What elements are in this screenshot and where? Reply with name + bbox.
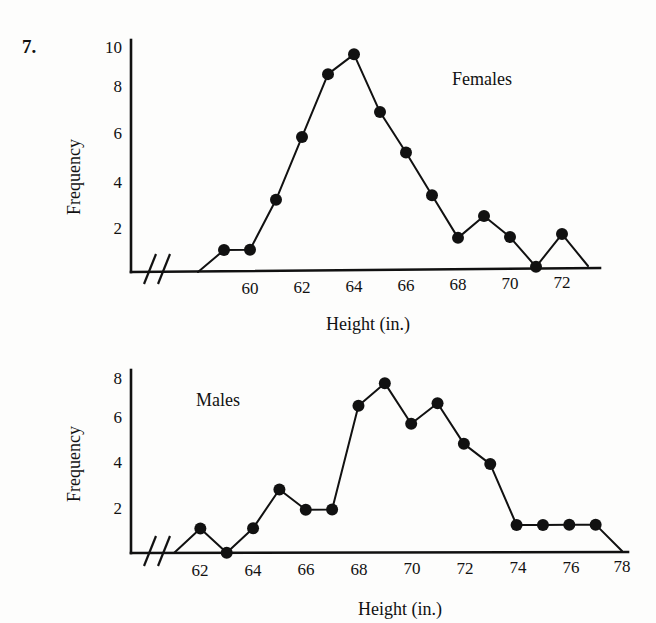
data-point xyxy=(273,483,285,495)
data-point xyxy=(484,458,496,470)
data-point xyxy=(478,210,490,222)
data-point xyxy=(247,522,259,534)
chart-females-svg: 2 4 6 8 10 60 62 64 66 68 70 72 Frequenc… xyxy=(0,0,656,340)
x-tick-label-males-0: 62 xyxy=(192,561,209,580)
chart-males: 2 4 6 8 62 64 66 68 70 72 74 76 78 Frequ… xyxy=(0,330,656,623)
data-point xyxy=(452,232,464,244)
data-point xyxy=(556,228,568,240)
x-tick-label-males-3: 68 xyxy=(351,560,368,579)
y-tick-label-males-0: 2 xyxy=(114,499,123,518)
x-tick-label-females-0: 60 xyxy=(242,279,259,298)
series-line-females xyxy=(198,54,588,272)
data-point xyxy=(322,68,334,80)
x-axis-title-males: Height (in.) xyxy=(358,599,442,620)
data-point xyxy=(194,522,206,534)
data-point xyxy=(590,519,602,531)
y-tick-label-males-3: 8 xyxy=(114,369,123,388)
data-point xyxy=(374,106,386,118)
x-tick-label-females-2: 64 xyxy=(346,277,364,296)
y-tick-label-females-1: 4 xyxy=(114,173,123,192)
worksheet-page: 7. 2 4 6 8 10 60 62 64 66 68 70 72 Fr xyxy=(0,0,656,623)
series-label-males: Males xyxy=(196,390,240,410)
y-tick-label-females-4: 10 xyxy=(105,38,122,57)
x-tick-label-males-2: 66 xyxy=(298,560,315,579)
data-point xyxy=(379,377,391,389)
data-point xyxy=(244,244,256,256)
axis-break-mark-females-2 xyxy=(158,254,170,284)
data-point xyxy=(537,519,549,531)
data-point xyxy=(400,147,412,159)
series-line-males xyxy=(174,383,622,553)
x-tick-label-females-5: 70 xyxy=(502,274,519,293)
y-tick-label-females-2: 6 xyxy=(114,124,123,143)
data-point xyxy=(426,189,438,201)
data-point xyxy=(221,547,233,559)
data-point xyxy=(296,131,308,143)
axis-break-mark-males-1 xyxy=(144,536,156,566)
axis-break-mark-females-1 xyxy=(144,254,156,284)
data-point xyxy=(300,504,312,516)
data-point xyxy=(504,231,516,243)
data-point xyxy=(218,244,230,256)
chart-males-svg: 2 4 6 8 62 64 66 68 70 72 74 76 78 Frequ… xyxy=(0,330,656,623)
y-tick-label-females-3: 8 xyxy=(114,77,123,96)
y-axis-title-females: Frequency xyxy=(64,139,84,215)
y-tick-label-females-0: 2 xyxy=(114,219,123,238)
x-tick-label-males-1: 64 xyxy=(245,561,263,580)
y-tick-label-males-2: 6 xyxy=(114,408,123,427)
axis-break-mark-males-2 xyxy=(158,536,170,566)
x-tick-label-females-3: 66 xyxy=(398,276,415,295)
x-tick-label-males-8: 78 xyxy=(614,557,631,576)
y-axis-title-males: Frequency xyxy=(64,426,84,502)
x-axis-line-males xyxy=(131,552,628,553)
series-markers-females xyxy=(218,48,568,272)
y-tick-label-males-1: 4 xyxy=(114,453,123,472)
data-point xyxy=(326,504,338,516)
x-tick-label-males-7: 76 xyxy=(563,558,580,577)
x-tick-label-males-4: 70 xyxy=(404,559,421,578)
x-tick-label-females-4: 68 xyxy=(450,275,467,294)
data-point xyxy=(511,519,523,531)
data-point xyxy=(530,261,542,273)
data-point xyxy=(458,438,470,450)
series-label-females: Females xyxy=(452,69,512,89)
x-tick-label-males-5: 72 xyxy=(457,559,474,578)
data-point xyxy=(352,400,364,412)
data-point xyxy=(563,519,575,531)
chart-females: 2 4 6 8 10 60 62 64 66 68 70 72 Frequenc… xyxy=(0,0,656,340)
x-tick-label-females-6: 72 xyxy=(554,273,571,292)
data-point xyxy=(405,418,417,430)
data-point xyxy=(348,48,360,60)
data-point xyxy=(270,194,282,206)
x-tick-label-males-6: 74 xyxy=(510,558,528,577)
x-tick-label-females-1: 62 xyxy=(294,278,311,297)
data-point xyxy=(432,397,444,409)
